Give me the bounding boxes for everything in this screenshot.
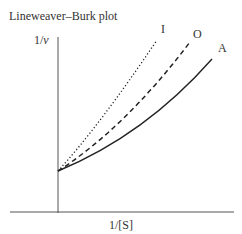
series-o-label: O (193, 27, 202, 42)
lineweaver-burk-chart: Lineweaver–Burk plot 1/v 1/[S] I O A (0, 0, 242, 234)
y-axis-label-variable: v (43, 33, 48, 47)
series-a-label: A (218, 41, 227, 56)
chart-title: Lineweaver–Burk plot (9, 9, 117, 24)
y-axis-label: 1/v (34, 33, 49, 48)
x-axis-label: 1/[S] (109, 218, 133, 233)
series-o-line (58, 42, 190, 171)
y-axis-label-prefix: 1/ (34, 33, 43, 47)
series-i-line (58, 40, 157, 171)
series-i-label: I (161, 22, 165, 37)
